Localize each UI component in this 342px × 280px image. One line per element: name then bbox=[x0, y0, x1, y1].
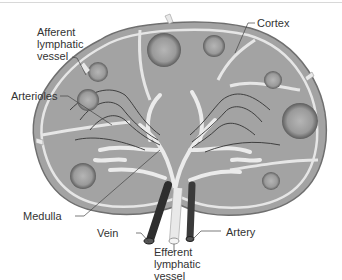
label-arterioles: Arterioles bbox=[11, 90, 57, 102]
label-medulla: Medulla bbox=[23, 210, 62, 222]
artery-vessel bbox=[190, 185, 192, 238]
label-afferent-lymphatic-vessel: Afferent lymphatic vessel bbox=[37, 26, 83, 62]
label-artery: Artery bbox=[226, 226, 255, 238]
efferent-lymphatic-vessel bbox=[174, 188, 178, 240]
label-cortex: Cortex bbox=[257, 17, 289, 29]
label-efferent-lymphatic-vessel: Efferent lymphatic vessel bbox=[154, 246, 200, 280]
label-vein: Vein bbox=[97, 227, 118, 239]
